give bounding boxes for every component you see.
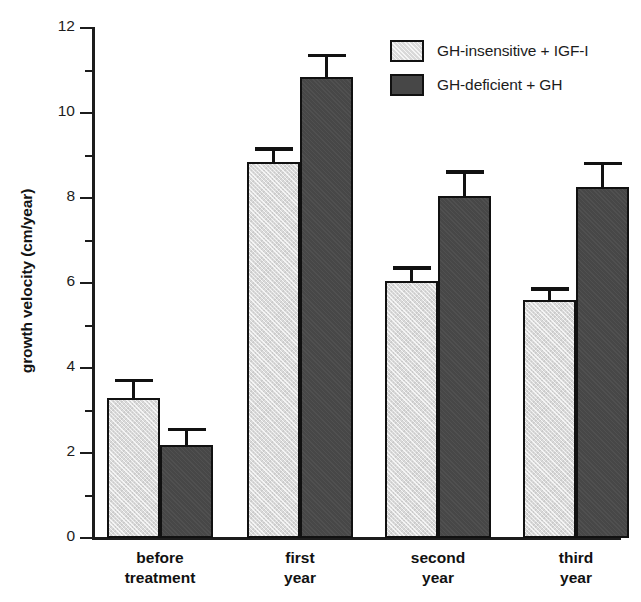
bar <box>160 445 213 539</box>
y-tick-label: 8 <box>15 187 75 205</box>
legend: GH-insensitive + IGF-I GH-deficient + GH <box>390 38 589 106</box>
y-tick-major <box>80 197 93 199</box>
y-tick-major <box>80 27 93 29</box>
bar <box>107 398 160 538</box>
y-tick-minor <box>85 325 93 327</box>
y-tick-label: 4 <box>15 357 75 375</box>
y-tick-minor <box>85 155 93 157</box>
error-bar-stem <box>463 170 466 196</box>
y-tick-minor <box>85 495 93 497</box>
legend-swatch-icon-light <box>390 40 424 62</box>
x-axis-label-line: treatment <box>90 568 230 588</box>
y-tick-label: 6 <box>15 272 75 290</box>
x-axis-label: beforetreatment <box>90 548 230 589</box>
error-bar-cap <box>255 147 293 151</box>
y-tick-minor <box>85 240 93 242</box>
x-axis-label-line: year <box>506 568 641 588</box>
x-axis-label-line: second <box>368 548 508 568</box>
x-axis-label-line: year <box>230 568 370 588</box>
error-bar-cap <box>168 428 206 432</box>
legend-label: GH-deficient + GH <box>437 76 562 94</box>
x-axis-label-line: first <box>230 548 370 568</box>
x-axis-label: secondyear <box>368 548 508 589</box>
x-axis-label-line: before <box>90 548 230 568</box>
y-tick-major <box>80 282 93 284</box>
y-tick-major <box>80 537 93 539</box>
y-tick-major <box>80 367 93 369</box>
y-tick-label: 12 <box>15 17 75 35</box>
x-axis-label-line: year <box>368 568 508 588</box>
error-bar-stem <box>601 162 604 188</box>
error-bar-cap <box>446 170 484 174</box>
x-axis-label-line: third <box>506 548 641 568</box>
error-bar-cap <box>531 287 569 291</box>
y-tick-label: 10 <box>15 102 75 120</box>
bar <box>385 281 438 538</box>
bar-chart-figure: growth velocity (cm/year) 024681012 befo… <box>0 0 641 602</box>
legend-label: GH-insensitive + IGF-I <box>437 42 589 60</box>
error-bar-cap <box>115 379 153 383</box>
y-tick-major <box>80 452 93 454</box>
y-tick-minor <box>85 410 93 412</box>
bar <box>438 196 491 538</box>
error-bar-stem <box>325 54 328 77</box>
legend-item: GH-insensitive + IGF-I <box>390 38 589 63</box>
y-tick-minor <box>85 70 93 72</box>
x-axis-label: firstyear <box>230 548 370 589</box>
y-tick-major <box>80 112 93 114</box>
x-axis-label: thirdyear <box>506 548 641 589</box>
legend-item: GH-deficient + GH <box>390 72 589 97</box>
y-tick-label: 0 <box>15 527 75 545</box>
y-tick-label: 2 <box>15 442 75 460</box>
bar <box>300 77 353 538</box>
bar <box>523 300 576 538</box>
error-bar-cap <box>584 162 622 166</box>
bar <box>576 187 629 538</box>
legend-swatch-icon-dark <box>390 74 424 96</box>
error-bar-cap <box>393 266 431 270</box>
bar <box>247 162 300 538</box>
error-bar-cap <box>308 54 346 58</box>
